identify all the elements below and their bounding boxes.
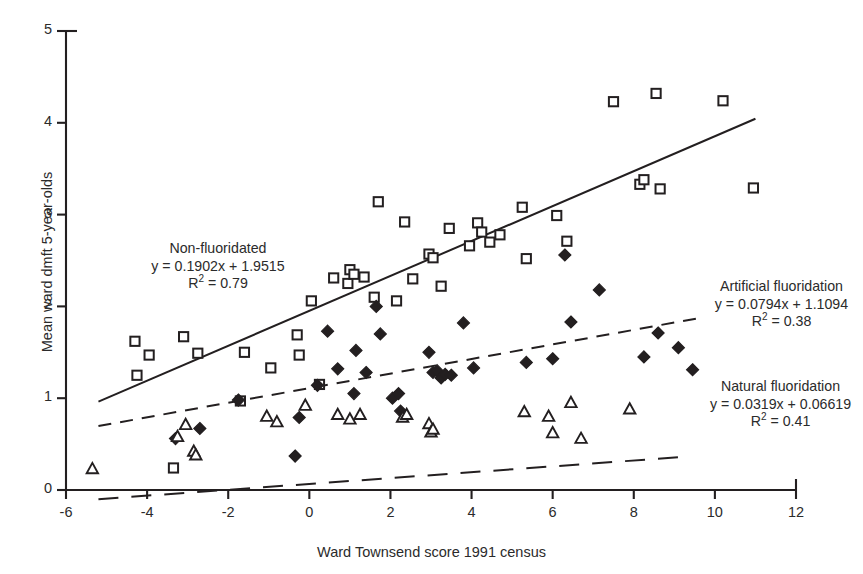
data-point-non-fluoridated (473, 218, 482, 227)
data-point-non-fluoridated (639, 175, 648, 184)
data-point-artificial-fluoridation (565, 316, 577, 328)
data-point-non-fluoridated (522, 254, 531, 263)
data-point-non-fluoridated (656, 184, 665, 193)
data-point-non-fluoridated (193, 349, 202, 358)
data-point-natural-fluoridation (519, 406, 530, 416)
data-point-artificial-fluoridation (652, 327, 664, 339)
data-point-non-fluoridated (240, 348, 249, 357)
data-point-artificial-fluoridation (423, 346, 435, 358)
data-point-non-fluoridated (295, 350, 304, 359)
data-point-artificial-fluoridation (593, 284, 605, 296)
data-point-artificial-fluoridation (638, 351, 650, 363)
x-tick-label-10: 10 (690, 504, 740, 520)
data-point-non-fluoridated (718, 96, 727, 105)
data-point-non-fluoridated (130, 337, 139, 346)
data-point-natural-fluoridation (180, 419, 191, 429)
annotation-equation-natural: y = 0.0319x + 0.06619 (698, 396, 863, 414)
data-point-non-fluoridated (400, 217, 409, 226)
data-point-non-fluoridated (609, 97, 618, 106)
y-axis-title: Mean ward dmft 5-year-olds (39, 112, 55, 412)
data-point-natural-fluoridation (354, 409, 365, 419)
x-tick-label-12: 12 (771, 504, 821, 520)
trendline-natural-fluoridation (98, 456, 690, 499)
scatter-chart-figure: 012345 -6-4-2024681012 Mean ward dmft 5-… (0, 0, 863, 574)
data-point-non-fluoridated (370, 293, 379, 302)
trendlines (98, 119, 755, 499)
annotation-r2-natural: R2 = 0.41 (698, 413, 863, 431)
data-point-natural-fluoridation (624, 403, 635, 413)
data-point-non-fluoridated (329, 273, 338, 282)
data-point-non-fluoridated (437, 282, 446, 291)
data-point-non-fluoridated (552, 211, 561, 220)
data-point-artificial-fluoridation (520, 356, 532, 368)
x-axis-title: Ward Townsend score 1991 census (0, 544, 863, 560)
data-point-non-fluoridated (307, 296, 316, 305)
data-point-non-fluoridated (349, 270, 358, 279)
data-point-artificial-fluoridation (289, 450, 301, 462)
data-point-non-fluoridated (749, 183, 758, 192)
annotation-title-artificial: Artificial fluoridation (700, 278, 863, 296)
x-tick-label-neg6: -6 (41, 504, 91, 520)
data-point-non-fluoridated (374, 197, 383, 206)
data-point-non-fluoridated (392, 296, 401, 305)
data-point-artificial-fluoridation (293, 411, 305, 423)
data-point-artificial-fluoridation (687, 364, 699, 376)
data-point-artificial-fluoridation (672, 342, 684, 354)
data-point-non-fluoridated (359, 272, 368, 281)
data-point-non-fluoridated (518, 203, 527, 212)
data-point-artificial-fluoridation (547, 353, 559, 365)
x-tick-label-2: 2 (365, 504, 415, 520)
annotation-equation-artificial: y = 0.0794x + 1.1094 (700, 296, 863, 314)
data-point-non-fluoridated (145, 350, 154, 359)
data-point-non-fluoridated (495, 230, 504, 239)
data-point-non-fluoridated (293, 330, 302, 339)
annotation-equation-non-fluoridated: y = 0.1902x + 1.9515 (118, 258, 318, 276)
data-point-non-fluoridated (428, 253, 437, 262)
annotation-non-fluoridated: Non-fluoridated y = 0.1902x + 1.9515 R2 … (118, 240, 318, 293)
data-point-non-fluoridated (445, 224, 454, 233)
data-point-artificial-fluoridation (194, 422, 206, 434)
data-point-non-fluoridated (485, 238, 494, 247)
x-tick-label-neg4: -4 (122, 504, 172, 520)
y-tick-label-0: 0 (18, 480, 52, 496)
data-point-natural-fluoridation (87, 463, 98, 473)
data-point-non-fluoridated (477, 227, 486, 236)
annotation-artificial-fluoridation: Artificial fluoridation y = 0.0794x + 1.… (700, 278, 863, 331)
x-tick-label-0: 0 (284, 504, 334, 520)
data-point-non-fluoridated (651, 89, 660, 98)
data-point-natural-fluoridation (332, 409, 343, 419)
x-tick-label-neg2: -2 (203, 504, 253, 520)
annotation-title-natural: Natural fluoridation (698, 378, 863, 396)
data-point-natural-fluoridation (547, 427, 558, 437)
data-point-natural-fluoridation (575, 433, 586, 443)
data-point-natural-fluoridation (300, 400, 311, 410)
x-tick-label-4: 4 (447, 504, 497, 520)
annotation-natural-fluoridation: Natural fluoridation y = 0.0319x + 0.066… (698, 378, 863, 431)
data-point-non-fluoridated (343, 279, 352, 288)
data-point-artificial-fluoridation (468, 362, 480, 374)
data-point-artificial-fluoridation (322, 325, 334, 337)
data-point-artificial-fluoridation (350, 344, 362, 356)
data-point-natural-fluoridation (543, 411, 554, 421)
annotation-r2-artificial: R2 = 0.38 (700, 313, 863, 331)
data-point-artificial-fluoridation (457, 317, 469, 329)
x-tick-label-6: 6 (528, 504, 578, 520)
data-point-artificial-fluoridation (374, 328, 386, 340)
data-point-non-fluoridated (465, 241, 474, 250)
data-point-artificial-fluoridation (332, 363, 344, 375)
data-point-non-fluoridated (132, 371, 141, 380)
x-tick-label-8: 8 (609, 504, 659, 520)
data-point-non-fluoridated (179, 332, 188, 341)
data-point-non-fluoridated (408, 274, 417, 283)
data-point-artificial-fluoridation (348, 388, 360, 400)
annotation-title-non-fluoridated: Non-fluoridated (118, 240, 318, 258)
data-point-non-fluoridated (266, 363, 275, 372)
data-point-natural-fluoridation (565, 397, 576, 407)
data-point-natural-fluoridation (261, 411, 272, 421)
y-tick-label-5: 5 (18, 21, 52, 37)
data-point-non-fluoridated (562, 237, 571, 246)
data-point-artificial-fluoridation (559, 249, 571, 261)
data-point-non-fluoridated (169, 463, 178, 472)
annotation-r2-non-fluoridated: R2 = 0.79 (118, 275, 318, 293)
